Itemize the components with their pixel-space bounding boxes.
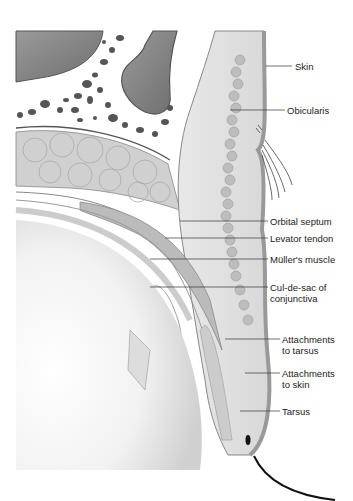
label-cul-de-sac-line2: conjunctiva [270, 293, 327, 304]
label-tarsus: Tarsus [282, 406, 310, 417]
label-orbital-septum: Orbital septum [270, 216, 332, 227]
label-attachments-skin-line1: Attachments [282, 368, 335, 379]
frontal-sinus [16, 31, 103, 82]
label-skin: Skin [295, 61, 313, 72]
label-cul-de-sac-line1: Cul-de-sac of [270, 282, 327, 293]
tarsus-gland [246, 435, 251, 445]
label-attachments-skin: Attachments to skin [282, 368, 335, 390]
label-attachments-tarsus-line2: to tarsus [282, 345, 335, 356]
lower-eyelash [254, 456, 335, 500]
label-levator-tendon: Levator tendon [270, 233, 333, 244]
label-muller-muscle: Müller's muscle [270, 254, 335, 265]
label-attachments-tarsus-line1: Attachments [282, 334, 335, 345]
label-obicularis: Obicularis [287, 105, 329, 116]
label-attachments-tarsus: Attachments to tarsus [282, 334, 335, 356]
orbital-fat [16, 131, 180, 210]
sinus-cavity [122, 31, 177, 114]
eyelid-cross-section-diagram [0, 0, 353, 501]
label-attachments-skin-line2: to skin [282, 379, 335, 390]
label-cul-de-sac: Cul-de-sac of conjunctiva [270, 282, 327, 304]
